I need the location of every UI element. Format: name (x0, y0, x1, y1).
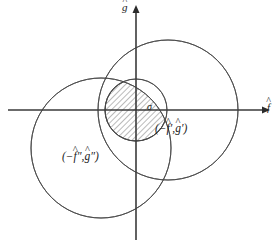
left-f-hat-glyph: ^f (74, 150, 77, 162)
g-hat-axis-label: ^ g (122, 1, 128, 13)
left-region-label: (−^f″,^g″) (62, 150, 99, 162)
hat-accent-icon: ^ (176, 117, 181, 128)
hat-accent-icon: ^ (266, 96, 271, 106)
hat-accent-icon: ^ (166, 117, 171, 128)
hat-accent-icon: ^ (73, 145, 78, 156)
f-hat-axis-label: ^ f (267, 101, 270, 113)
right-close-paren: ) (183, 122, 187, 134)
vertical-axis-arrowhead (133, 5, 140, 13)
right-f-hat-glyph: ^f (167, 122, 170, 134)
hat-accent-icon: ^ (85, 145, 90, 156)
figure-container: ^ g ^ f σ (−^f′,^g′) (−^f″,^g″) (0, 0, 278, 251)
hat-accent-icon: ^ (122, 0, 127, 6)
left-close-paren: ) (95, 150, 99, 162)
right-g-hat-glyph: ^g (175, 122, 181, 134)
g-hat-glyph: ^ g (122, 1, 128, 13)
right-region-label: (−^f′,^g′) (155, 122, 187, 134)
sigma-label: σ (147, 101, 152, 112)
left-g-hat-glyph: ^g (84, 150, 90, 162)
figure-canvas (0, 0, 278, 251)
f-hat-glyph: ^ f (267, 101, 270, 113)
